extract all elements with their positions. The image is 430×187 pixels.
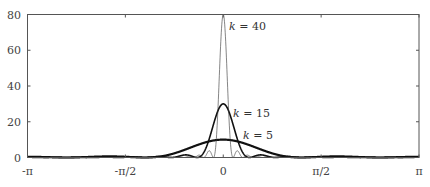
annotation-k40: k = 40 bbox=[229, 20, 266, 33]
x-tick-label: π/2 bbox=[312, 165, 330, 178]
x-tick-label: -π/2 bbox=[115, 165, 137, 178]
annotation-k5: k = 5 bbox=[243, 129, 273, 142]
y-tick-label: 0 bbox=[14, 152, 21, 165]
plot-frame bbox=[28, 15, 420, 158]
y-tick-label: 20 bbox=[7, 116, 21, 129]
x-tick-label: 0 bbox=[220, 165, 227, 178]
y-tick-label: 40 bbox=[7, 80, 21, 93]
kernel-chart: -π-π/20π/2π 020406080 k = 40 k = 15 k = … bbox=[0, 0, 430, 187]
x-axis-ticks: -π-π/20π/2π bbox=[22, 15, 423, 179]
y-tick-label: 60 bbox=[7, 44, 21, 57]
plot-curves bbox=[28, 15, 420, 158]
y-tick-label: 80 bbox=[7, 9, 21, 22]
series-k15 bbox=[28, 104, 420, 158]
x-tick-label: π bbox=[415, 165, 422, 178]
annotation-k15: k = 15 bbox=[233, 107, 270, 120]
series-k40 bbox=[28, 15, 420, 158]
x-tick-label: -π bbox=[22, 165, 33, 178]
